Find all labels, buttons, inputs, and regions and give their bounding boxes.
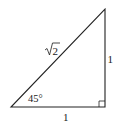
triangle-shape <box>11 9 105 107</box>
horizontal-leg-label: 1 <box>63 111 69 123</box>
hypotenuse-label: 2 <box>45 43 60 57</box>
triangle-diagram: 2 1 1 45° <box>0 0 117 124</box>
right-angle-marker <box>99 101 105 107</box>
hypotenuse-value: 2 <box>53 45 59 57</box>
vertical-leg-label: 1 <box>108 53 114 65</box>
angle-label: 45° <box>28 93 43 104</box>
